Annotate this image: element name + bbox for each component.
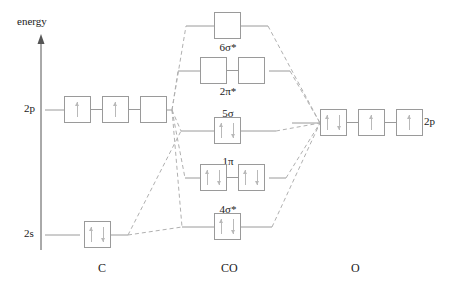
mo-boxes-4sigma-star [214,213,241,240]
column-label-c: C [98,262,106,274]
energy-axis-label: energy [17,16,47,27]
mo-boxes-5sigma [214,117,241,144]
electron-spins [201,165,226,190]
box-connector [91,109,102,110]
electron-up-icon [75,102,80,117]
level-boxes-o-2p [320,109,423,136]
mo-boxes-6sigma-star [214,12,241,39]
orbital-box[interactable] [200,164,227,191]
electron-spins [239,165,264,190]
electron-spins [359,110,384,135]
column-label-o: O [351,262,360,274]
orbital-box[interactable] [84,221,111,248]
electron-up-icon [89,227,94,242]
electron-up-icon [219,123,224,138]
electron-spins [215,118,240,143]
electron-down-icon [231,219,236,234]
electron-down-icon [255,170,260,185]
electron-spins [321,110,346,135]
mo-boxes-2pi-star [200,57,265,84]
orbital-box[interactable] [238,164,265,191]
orbital-box[interactable] [396,109,423,136]
orbital-box[interactable] [214,117,241,144]
electron-spins [103,97,128,122]
electron-up-icon [243,170,248,185]
level-lines-left [45,110,172,235]
electron-down-icon [231,123,236,138]
level-label-c-2s: 2s [24,228,34,239]
level-label-c-2p: 2p [24,103,35,114]
electron-down-icon [337,115,342,130]
electron-up-icon [205,170,210,185]
level-boxes-c-2s [84,221,111,248]
electron-spins [215,214,240,239]
level-label-o-2p: 2p [424,116,435,127]
up-arrow-icon [38,34,45,44]
orbital-box[interactable] [140,96,167,123]
column-label-co: CO [221,262,238,274]
correlation-lines-right [268,26,320,227]
orbital-box[interactable] [358,109,385,136]
electron-up-icon [369,115,374,130]
orbital-box[interactable] [64,96,91,123]
orbital-box[interactable] [102,96,129,123]
orbital-box[interactable] [320,109,347,136]
electron-up-icon [219,219,224,234]
box-connector [227,70,238,71]
orbital-box[interactable] [214,213,241,240]
electron-spins [397,110,422,135]
electron-down-icon [217,170,222,185]
box-connector [227,177,238,178]
electron-up-icon [113,102,118,117]
electron-down-icon [101,227,106,242]
orbital-box[interactable] [214,12,241,39]
box-connector [129,109,140,110]
orbital-box[interactable] [238,57,265,84]
mo-boxes-1pi [200,164,265,191]
electron-up-icon [325,115,330,130]
box-connector [347,122,358,123]
mo-label-2pi-star: 2π* [207,86,249,97]
electron-spins [85,222,110,247]
energy-axis [38,34,45,250]
correlation-lines-left [128,26,186,235]
box-connector [385,122,396,123]
electron-spins [65,97,90,122]
level-boxes-c-2p [64,96,167,123]
orbital-box[interactable] [200,57,227,84]
mo-energy-diagram: energy 2p 2s [0,0,449,286]
mo-label-6sigma-star: 6σ* [207,42,249,53]
electron-up-icon [407,115,412,130]
